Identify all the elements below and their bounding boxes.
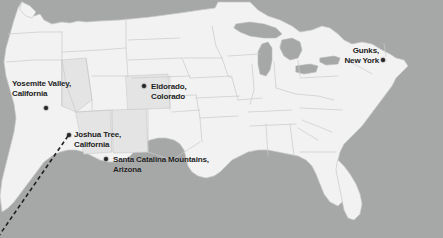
poi-label-line1: Santa Catalina Mountains,	[113, 155, 209, 164]
poi-label-line2: California	[12, 89, 71, 99]
poi-label-line1: Joshua Tree,	[74, 130, 121, 139]
poi-label-joshua-tree-california: Joshua Tree, California	[74, 130, 121, 149]
map-marker-icon[interactable]	[67, 133, 71, 137]
map-marker-icon[interactable]	[142, 84, 146, 88]
poi-layer: Yosemite Valley, California Eldorado, Co…	[0, 0, 443, 238]
poi-label-eldorado-colorado: Eldorado, Colorado	[151, 82, 187, 101]
us-map: Yosemite Valley, California Eldorado, Co…	[0, 0, 443, 238]
poi-label-line1: Eldorado,	[151, 82, 187, 91]
map-marker-icon[interactable]	[44, 106, 48, 110]
poi-label-line2: Colorado	[151, 92, 187, 102]
poi-label-line2: Arizona	[113, 165, 209, 175]
poi-label-line1: Gunks,	[353, 46, 379, 55]
map-marker-icon[interactable]	[104, 157, 108, 161]
poi-label-line2: California	[74, 140, 121, 150]
map-marker-icon[interactable]	[381, 58, 385, 62]
poi-label-gunks-new-york: Gunks, New York	[337, 46, 379, 65]
poi-label-line1: Yosemite Valley,	[12, 79, 71, 88]
poi-label-yosemite-valley: Yosemite Valley, California	[12, 79, 71, 98]
poi-label-santa-catalina-mountains: Santa Catalina Mountains, Arizona	[113, 155, 209, 174]
poi-label-line2: New York	[337, 56, 379, 66]
